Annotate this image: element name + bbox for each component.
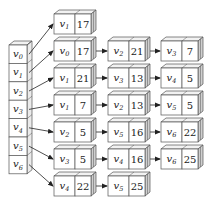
weight-label: 5 [80,127,86,138]
list-node-v3-v1: v17 [54,91,96,115]
weight-label: 17 [77,46,90,57]
list-node-v4-v5: v516 [108,118,150,142]
list-node-v1-v2: v221 [108,37,150,61]
list-node-v3-v5: v55 [161,91,203,115]
list-node-v3-v2: v213 [108,91,150,115]
weight-label: 22 [77,181,90,192]
list-node-v1-v0: v017 [54,37,96,61]
weight-label: 25 [184,154,197,165]
weight-label: 7 [80,100,86,111]
adjacency-list-diagram: v0v1v2v3v4v5v6 v117v017v221v37v121v313v4… [0,0,210,207]
list-node-v5-v4: v416 [108,145,150,169]
list-node-v2-v4: v45 [161,64,203,88]
list-node-v6-v4: v422 [54,172,96,196]
list-node-v5-v3: v35 [54,145,96,169]
vertex-array-side-face [27,41,32,174]
weight-label: 5 [187,73,193,84]
list-node-v5-v6: v625 [161,145,203,169]
weight-label: 5 [187,100,193,111]
list-node-v4-v2: v25 [54,118,96,142]
weight-label: 16 [131,154,144,165]
head-arrow-v4 [29,128,53,132]
list-node-v2-v1: v121 [54,64,96,88]
head-arrow-v1 [29,51,53,73]
weight-label: 13 [131,100,144,111]
list-node-v6-v5: v525 [108,172,150,196]
weight-label: 16 [131,127,144,138]
weight-label: 17 [77,19,90,30]
head-arrow-v0 [29,24,53,54]
weight-label: 5 [80,154,86,165]
vertex-array: v0v1v2v3v4v5v6 [9,41,32,174]
adjacency-lists: v117v017v221v37v121v313v45v17v213v55v25v… [54,10,203,196]
list-node-v2-v3: v313 [108,64,150,88]
weight-label: 21 [131,46,144,57]
weight-label: 13 [131,73,144,84]
weight-label: 7 [187,46,193,57]
head-arrow-v3 [29,105,53,109]
head-arrow-v2 [29,78,53,91]
head-arrow-v6 [29,165,53,186]
list-node-v1-v3: v37 [161,37,203,61]
list-node-v0-v1: v117 [54,10,96,34]
weight-label: 22 [184,127,197,138]
weight-label: 25 [131,181,144,192]
weight-label: 21 [77,73,90,84]
list-node-v4-v6: v622 [161,118,203,142]
head-arrow-v5 [29,146,53,159]
